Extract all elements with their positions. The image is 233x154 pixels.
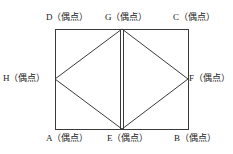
edge-H-G: [55, 29, 122, 79]
vertex-label-A: A（偶点）: [46, 133, 89, 144]
vertex-label-B: B（偶点）: [174, 133, 216, 144]
vertex-label-C: C（偶点）: [173, 12, 215, 23]
vertex-label-H: H（偶点）: [3, 73, 46, 84]
geometry-figure: D（偶点） G（偶点） C（偶点） H（偶点） F（偶点） A（偶点） E（偶点…: [0, 0, 233, 154]
vertex-label-F: F（偶点）: [189, 73, 230, 84]
vertex-label-D: D（偶点）: [46, 12, 89, 23]
edge-E-H: [55, 79, 122, 129]
vertex-label-G: G（偶点）: [105, 12, 148, 23]
edge-rectangle-outline: [55, 29, 188, 129]
vertex-label-E: E（偶点）: [107, 133, 149, 144]
edge-G-F: [122, 29, 188, 79]
edge-F-E: [122, 79, 188, 129]
